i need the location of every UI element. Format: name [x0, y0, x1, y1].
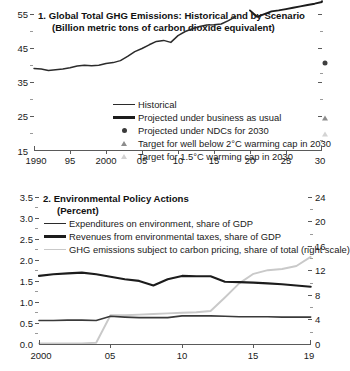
panel2-xtick-2000: 2000 — [30, 351, 51, 361]
panel-global-ghg-emissions: 1. Global Total GHG Emissions: Historica… — [0, 0, 341, 186]
panel1-xtick — [70, 150, 71, 154]
panel1-legend: Historical Projected under business as u… — [112, 98, 331, 163]
panel-environmental-policy-actions: 2. Environmental Policy Actions (Percent… — [0, 185, 341, 371]
panel1-xtick-1990: 1990 — [25, 156, 46, 166]
panel2-axis-cap-right — [310, 340, 311, 345]
panel1-xtick-05: 05 — [137, 156, 148, 166]
panel2-axis-cap-left — [39, 340, 40, 345]
panel1-xtick — [286, 150, 287, 154]
panel1-xtick-15: 15 — [209, 156, 220, 166]
panel1-xtick-25: 25 — [281, 156, 292, 166]
legend-item-target-2c[interactable]: Target for well below 2°C warming cap in… — [112, 137, 331, 150]
panel1-xtick-10: 10 — [173, 156, 184, 166]
panel2-x-axis — [39, 344, 311, 345]
panel1-xtick-95: 95 — [65, 156, 76, 166]
panel2-xtick-15: 15 — [248, 351, 259, 361]
panel1-xtick-2000: 2000 — [95, 156, 116, 166]
panel1-xtick — [214, 150, 215, 154]
series-revenues-env-taxes — [39, 273, 311, 287]
legend-item-historical[interactable]: Historical — [112, 98, 331, 111]
panel1-xtick — [178, 150, 179, 154]
line-swatch-icon — [112, 98, 136, 111]
series-expenditures-env — [39, 316, 311, 321]
legend-item-projected-bau[interactable]: Projected under business as usual — [112, 111, 331, 124]
legend-label: Historical — [136, 99, 177, 110]
line-swatch-icon — [112, 111, 136, 124]
panel2-xtick-10: 10 — [177, 351, 188, 361]
panel1-xtick-20: 20 — [245, 156, 256, 166]
series-projected-bau — [250, 1, 322, 17]
panel2-xtick — [253, 344, 254, 348]
dot-marker-icon — [112, 124, 136, 137]
panel1-xtick — [106, 150, 107, 154]
legend-label: Target for well below 2°C warming cap in… — [136, 138, 331, 149]
panel1-axis-cap-right — [321, 146, 322, 151]
panel2-plot-area — [0, 185, 341, 357]
series-carbon-pricing — [39, 257, 311, 344]
panel1-axis-cap-left — [34, 146, 35, 151]
legend-label: Projected under business as usual — [136, 112, 281, 123]
panel1-xtick-30: 30 — [315, 156, 326, 166]
triangle-marker-icon — [112, 137, 136, 150]
series-historical — [34, 17, 236, 71]
panel1-xtick — [250, 150, 251, 154]
panel2-xtick — [110, 344, 111, 348]
panel2-xtick-05: 05 — [105, 351, 116, 361]
legend-label: Projected under NDCs for 2030 — [136, 125, 269, 136]
legend-item-projected-ndc[interactable]: Projected under NDCs for 2030 — [112, 124, 331, 137]
panel2-xtick-19: 19 — [304, 351, 315, 361]
marker-projected-ndc-2030 — [323, 61, 328, 66]
panel1-xtick — [142, 150, 143, 154]
panel2-xtick — [182, 344, 183, 348]
